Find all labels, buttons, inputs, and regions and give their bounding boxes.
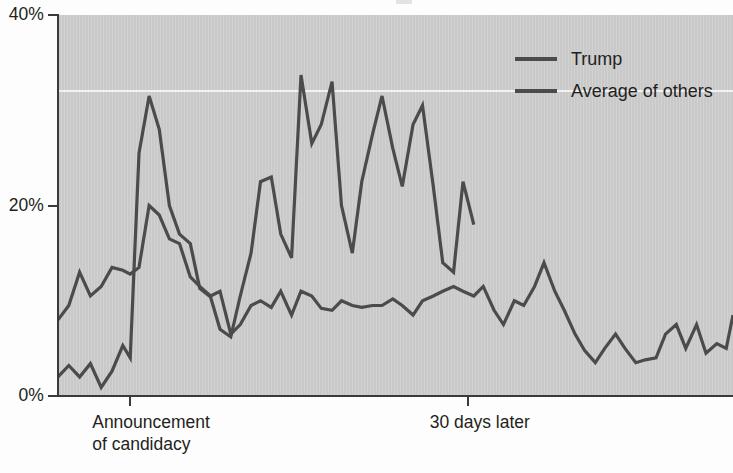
x-tick-1: [467, 397, 469, 406]
y-tick-0: [48, 395, 57, 397]
x-tick-0: [129, 397, 131, 406]
legend-label-trump: Trump: [571, 49, 622, 70]
y-tick-label-20: 20%: [9, 195, 44, 216]
series-line-trump: [58, 75, 474, 387]
x-tick-label-line1: 30 days later: [430, 411, 530, 433]
x-tick-label-line1: Announcement: [92, 411, 210, 433]
y-tick-20: [48, 205, 57, 207]
series-line-average-of-others: [58, 206, 733, 363]
x-axis-line: [57, 395, 733, 397]
x-tick-label-1: 30 days later: [430, 411, 530, 433]
legend-label-average-of-others: Average of others: [571, 81, 713, 102]
x-tick-label-line2: of candidacy: [92, 433, 210, 455]
y-tick-label-0: 0%: [19, 385, 45, 406]
legend-item-average-of-others: Average of others: [515, 75, 730, 107]
y-axis-line: [57, 14, 59, 397]
chart-figure: 40%20%0% Announcementof candidacy30 days…: [0, 0, 733, 473]
x-tick-label-0: Announcementof candidacy: [92, 411, 210, 455]
cropped-title-artifact: [396, 0, 412, 4]
y-tick-label-40: 40%: [9, 4, 44, 25]
y-tick-40: [48, 14, 57, 16]
legend-swatch-average-of-others: [515, 89, 557, 93]
chart-legend: Trump Average of others: [515, 43, 730, 107]
legend-swatch-trump: [515, 57, 557, 61]
legend-item-trump: Trump: [515, 43, 730, 75]
